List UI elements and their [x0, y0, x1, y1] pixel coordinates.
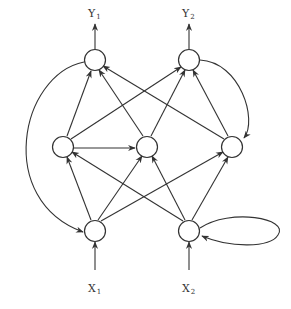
edge-h1-o1 [67, 71, 91, 136]
edge-i2-h2 [152, 156, 185, 220]
label-y2: Y2 [181, 7, 195, 21]
edge-h3-o2 [193, 70, 228, 136]
hidden-node-3 [222, 137, 243, 158]
input-node-2 [179, 221, 200, 242]
edge-h2-o2 [151, 70, 185, 136]
label-y1: Y1 [87, 7, 101, 21]
edge-i2-h1 [72, 152, 183, 221]
self-loop-i2 [200, 217, 280, 245]
label-x2: X2 [182, 282, 195, 296]
edge-i1-h1 [67, 157, 91, 220]
output-node-1 [85, 50, 106, 71]
network-diagram: Y1 Y2 X1 X2 [0, 0, 291, 309]
label-x1: X1 [88, 282, 101, 296]
hidden-node-1 [53, 137, 74, 158]
hidden-node-2 [137, 137, 158, 158]
edge-h2-o1 [99, 70, 143, 136]
feedback-o2-h3 [200, 60, 249, 138]
edge-i1-h3 [101, 152, 223, 221]
input-node-1 [85, 221, 106, 242]
output-node-2 [179, 50, 200, 71]
